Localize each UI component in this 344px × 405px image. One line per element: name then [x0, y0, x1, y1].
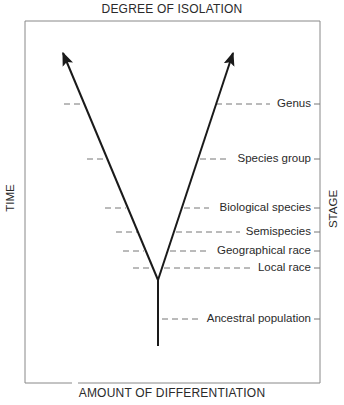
stage-semispecies: Semispecies [244, 225, 313, 238]
left-branch [63, 53, 158, 280]
axis-label-stage: STAGE [327, 189, 339, 229]
stage-ancestral-population: Ancestral population [205, 312, 313, 325]
stage-genus: Genus [275, 97, 313, 110]
stage-species-group: Species group [235, 152, 313, 165]
stage-geographical-race: Geographical race [215, 244, 313, 257]
phylogeny-lines [63, 53, 233, 346]
title-amount-of-differentiation: AMOUNT OF DIFFERENTIATION [0, 386, 344, 400]
stage-biological-species: Biological species [218, 201, 313, 214]
stage-local-race: Local race [256, 261, 313, 274]
stage-ticks [314, 104, 320, 319]
axis-label-time: TIME [4, 178, 16, 218]
